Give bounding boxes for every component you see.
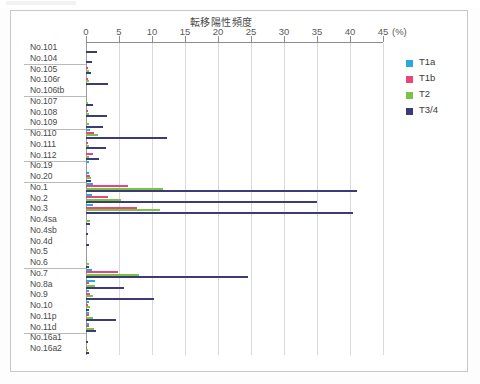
row-label-No-11p: No.11p: [30, 311, 84, 321]
bar-T3-4-No-4d: [86, 244, 89, 246]
chart-page: 転移陽性頻度 051015202530354045(%) No.101No.10…: [0, 0, 480, 384]
bar-T3-4-No-9: [86, 298, 154, 300]
bar-T1a-No-19: [86, 161, 89, 163]
row-bars: [86, 344, 386, 355]
row-bars: [86, 204, 386, 215]
legend-label: T1b: [419, 72, 435, 83]
bar-T3-4-No-20: [86, 180, 91, 182]
row-bars: [86, 258, 386, 269]
bar-T3-4-No-107: [86, 104, 93, 106]
row-label-No-20: No.20: [30, 171, 84, 181]
row-bars: [86, 323, 386, 334]
bar-T3-4-No-10: [86, 309, 89, 311]
legend-label: T3/4: [419, 104, 438, 115]
row-bars: [86, 172, 386, 183]
row-bars: [86, 140, 386, 151]
row-label-No-104: No.104: [30, 53, 84, 63]
bar-T3-4-No-106r: [86, 83, 108, 85]
legend-item-T1b[interactable]: T1b: [406, 72, 464, 88]
x-tick-30: [284, 36, 285, 42]
row-bars: [86, 312, 386, 323]
row-label-No-16a2: No.16a2: [30, 343, 84, 353]
row-bars: [86, 237, 386, 248]
row-label-No-16a1: No.16a1: [30, 332, 84, 342]
bar-T3-4-No-2: [86, 201, 317, 203]
row-label-No-11d: No.11d: [30, 322, 84, 332]
x-axis-tick-labels: 051015202530354045(%): [0, 26, 480, 40]
row-label-No-6: No.6: [30, 257, 84, 267]
row-bars: [86, 333, 386, 344]
bar-T3-4-No-105: [86, 72, 91, 74]
legend-label: T1a: [419, 56, 435, 67]
legend-item-T3-4[interactable]: T3/4: [406, 104, 464, 120]
row-bars: [86, 54, 386, 65]
row-label-No-4sb: No.4sb: [30, 225, 84, 235]
row-bars: [86, 194, 386, 205]
x-tick-45: [383, 36, 384, 42]
row-bars: [86, 86, 386, 97]
bar-T3-4-No-16a2: [86, 352, 89, 354]
row-label-No-5: No.5: [30, 246, 84, 256]
row-bars: [86, 290, 386, 301]
row-bars: [86, 301, 386, 312]
bar-T3-4-No-11p: [86, 319, 116, 321]
row-label-No-7: No.7: [30, 268, 84, 278]
bar-T3-4-No-104: [86, 61, 92, 63]
row-label-No-8a: No.8a: [30, 279, 84, 289]
bar-T3-4-No-111: [86, 147, 106, 149]
x-tick-35: [317, 36, 318, 42]
row-bars: [86, 108, 386, 119]
row-label-No-101: No.101: [30, 42, 84, 52]
row-bars: [86, 151, 386, 162]
chart-legend: T1aT1bT2T3/4: [406, 56, 464, 120]
x-tick-20: [218, 36, 219, 42]
x-tick-5: [119, 36, 120, 42]
bar-T3-4-No-4sb: [86, 233, 88, 235]
x-tick-40: [350, 36, 351, 42]
row-bars: [86, 43, 386, 54]
row-label-No-4sa: No.4sa: [30, 214, 84, 224]
row-label-No-19: No.19: [30, 160, 84, 170]
row-label-No-107: No.107: [30, 96, 84, 106]
row-label-No-106tb: No.106tb: [30, 85, 84, 95]
row-label-No-10: No.10: [30, 300, 84, 310]
legend-label: T2: [419, 88, 430, 99]
row-label-No-112: No.112: [30, 150, 84, 160]
row-bars: [86, 215, 386, 226]
bar-T3-4-No-101: [86, 51, 97, 53]
legend-swatch-icon: [406, 60, 413, 67]
row-label-No-9: No.9: [30, 289, 84, 299]
bar-T3-4-No-3: [86, 212, 353, 214]
bar-T3-4-No-6: [86, 266, 89, 268]
legend-swatch-icon: [406, 76, 413, 83]
row-bars: [86, 247, 386, 258]
row-bars: [86, 280, 386, 291]
x-tick-15: [185, 36, 186, 42]
scan-artifact: [6, 1, 76, 5]
x-tick-10: [152, 36, 153, 42]
row-bars: [86, 269, 386, 280]
row-label-No-105: No.105: [30, 64, 84, 74]
row-label-No-108: No.108: [30, 107, 84, 117]
bar-T3-4-No-11d: [86, 330, 96, 332]
row-label-No-2: No.2: [30, 193, 84, 203]
row-label-No-106r: No.106r: [30, 74, 84, 84]
row-label-No-111: No.111: [30, 139, 84, 149]
legend-swatch-icon: [406, 92, 413, 99]
legend-item-T1a[interactable]: T1a: [406, 56, 464, 72]
legend-swatch-icon: [406, 108, 413, 115]
x-tick-0: [86, 36, 87, 42]
row-bars: [86, 226, 386, 237]
bar-T3-4-No-16a1: [86, 341, 88, 343]
row-label-No-1: No.1: [30, 182, 84, 192]
chart-row: No.16a2: [0, 344, 480, 355]
row-bars: [86, 161, 386, 172]
row-label-No-3: No.3: [30, 203, 84, 213]
bar-T3-4-No-7: [86, 276, 248, 278]
row-label-No-110: No.110: [30, 128, 84, 138]
bar-T3-4-No-8a: [86, 287, 124, 289]
bar-T3-4-No-108: [86, 115, 107, 117]
bar-T3-4-No-110: [86, 137, 167, 139]
row-bars: [86, 129, 386, 140]
legend-item-T2[interactable]: T2: [406, 88, 464, 104]
